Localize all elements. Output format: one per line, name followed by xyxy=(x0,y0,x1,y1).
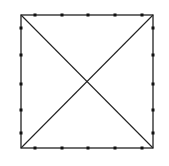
marker-top xyxy=(34,14,37,17)
marker-bottom xyxy=(34,147,37,150)
diagram-canvas xyxy=(0,0,169,166)
marker-top xyxy=(87,14,90,17)
marker-bottom xyxy=(87,147,90,150)
marker-bottom xyxy=(141,147,144,150)
marker-top xyxy=(114,14,117,17)
marker-top xyxy=(61,14,64,17)
marker-right xyxy=(152,54,155,57)
marker-bottom xyxy=(114,147,117,150)
marker-left xyxy=(20,132,23,135)
marker-left xyxy=(20,83,23,86)
marker-top xyxy=(141,14,144,17)
marker-right xyxy=(152,27,155,30)
marker-bottom xyxy=(61,147,64,150)
marker-left xyxy=(20,109,23,112)
marker-left xyxy=(20,27,23,30)
marker-right xyxy=(152,83,155,86)
marker-right xyxy=(152,132,155,135)
marker-left xyxy=(20,54,23,57)
marker-right xyxy=(152,109,155,112)
